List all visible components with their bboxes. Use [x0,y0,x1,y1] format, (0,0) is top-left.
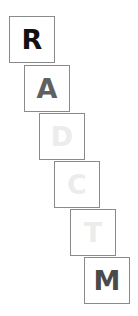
tile-d: D [39,113,85,160]
tile-letter: A [37,73,58,104]
tile-letter: D [51,121,73,152]
tile-r: R [9,16,55,63]
tile-m: M [84,257,130,304]
tile-letter: R [22,24,43,55]
tile-c: C [54,161,100,208]
tile-letter: T [84,217,102,248]
tile-letter: M [94,265,121,296]
tile-t: T [70,209,116,256]
tile-a: A [24,65,70,112]
tile-letter: C [67,169,87,200]
